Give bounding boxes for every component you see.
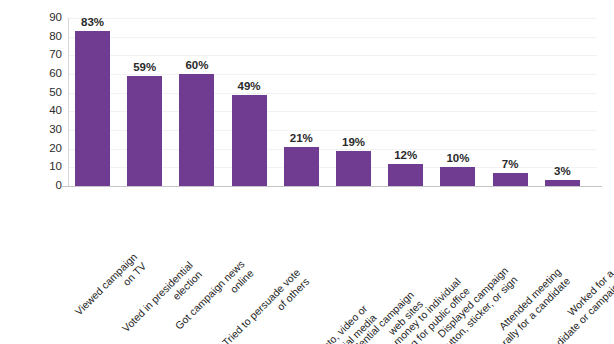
bar[interactable] bbox=[336, 151, 371, 186]
bar[interactable] bbox=[388, 164, 423, 186]
bar-chart: 0102030405060708090 83%59%60%49%21%19%12… bbox=[0, 0, 614, 344]
bar[interactable] bbox=[232, 95, 267, 186]
bar[interactable] bbox=[284, 147, 319, 186]
y-axis-tick-label: 10 bbox=[36, 162, 62, 174]
bar[interactable] bbox=[179, 74, 214, 186]
bar-value-label: 49% bbox=[225, 81, 273, 93]
bar-value-label: 7% bbox=[486, 159, 534, 171]
y-axis-tick-labels: 0102030405060708090 bbox=[30, 0, 62, 344]
x-axis-line bbox=[62, 186, 602, 187]
bar-value-label: 59% bbox=[121, 62, 169, 74]
y-axis-tick-label: 70 bbox=[36, 50, 62, 62]
bar-value-label: 60% bbox=[173, 60, 221, 72]
y-axis-tick-label: 50 bbox=[36, 87, 62, 99]
bar-value-label: 21% bbox=[277, 133, 325, 145]
y-axis-tick-label: 20 bbox=[36, 143, 62, 155]
bar-value-label: 10% bbox=[434, 153, 482, 165]
bar-value-label: 19% bbox=[330, 137, 378, 149]
y-axis-tick-label: 0 bbox=[36, 180, 62, 192]
bar[interactable] bbox=[493, 173, 528, 186]
y-axis-tick-label: 80 bbox=[36, 31, 62, 43]
bar[interactable] bbox=[440, 167, 475, 186]
bar[interactable] bbox=[75, 31, 110, 186]
bar-value-label: 12% bbox=[382, 150, 430, 162]
y-axis-tick-label: 40 bbox=[36, 106, 62, 118]
y-axis-tick-label: 30 bbox=[36, 124, 62, 136]
bar-value-label: 83% bbox=[69, 17, 117, 29]
bar-value-label: 3% bbox=[538, 166, 586, 178]
bar[interactable] bbox=[127, 76, 162, 186]
y-axis-tick-label: 90 bbox=[36, 12, 62, 24]
bars-layer: 83%59%60%49%21%19%12%10%7%3% bbox=[68, 18, 597, 186]
bar[interactable] bbox=[545, 180, 580, 186]
y-axis-tick-label: 60 bbox=[36, 68, 62, 80]
